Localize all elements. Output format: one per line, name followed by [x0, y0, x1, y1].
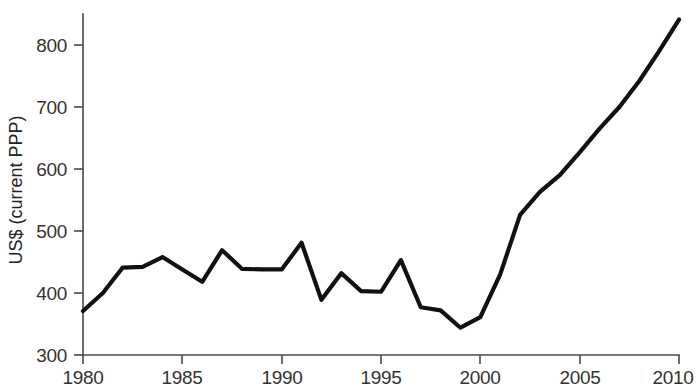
data-series-line [83, 20, 679, 328]
y-axis: 800 700 600 500 400 300 [36, 14, 83, 366]
y-tick-label-500: 500 [36, 221, 67, 242]
y-axis-tick-labels: 800 700 600 500 400 300 [36, 35, 67, 366]
x-tick-label-2000: 2000 [459, 367, 500, 388]
x-axis: 1980 1985 1990 1995 2000 2005 2010 [62, 355, 693, 388]
x-tick-label-1985: 1985 [161, 367, 202, 388]
y-axis-title: US$ (current PPP) [6, 115, 26, 264]
x-tick-label-1990: 1990 [261, 367, 302, 388]
x-tick-label-2010: 2010 [652, 367, 693, 388]
x-tick-label-1980: 1980 [62, 367, 103, 388]
y-tick-label-400: 400 [36, 283, 67, 304]
x-tick-label-1995: 1995 [360, 367, 401, 388]
y-tick-label-600: 600 [36, 159, 67, 180]
y-tick-label-700: 700 [36, 97, 67, 118]
y-tick-label-300: 300 [36, 345, 67, 366]
line-chart: US$ (current PPP) 800 700 600 500 400 30… [0, 0, 696, 389]
y-tick-label-800: 800 [36, 35, 67, 56]
chart-canvas: US$ (current PPP) 800 700 600 500 400 30… [0, 0, 696, 389]
x-axis-ticks [83, 355, 679, 364]
y-axis-ticks [74, 45, 83, 355]
x-tick-label-2005: 2005 [559, 367, 600, 388]
x-axis-tick-labels: 1980 1985 1990 1995 2000 2005 2010 [62, 367, 693, 388]
